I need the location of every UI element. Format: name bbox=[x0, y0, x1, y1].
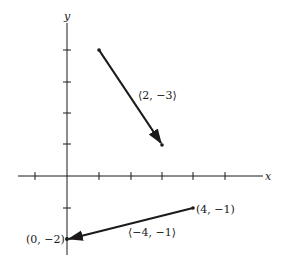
vector-2-neg3-end-point bbox=[160, 143, 164, 147]
x-axis-label: x bbox=[265, 170, 272, 183]
vector-diagram: x y ⟨2, −3⟩ (4, −1) (0, −2) ⟨−4, −1⟩ bbox=[0, 0, 285, 265]
vector-neg4-neg1-label: ⟨−4, −1⟩ bbox=[128, 226, 176, 239]
vector-2-neg3-label: ⟨2, −3⟩ bbox=[138, 89, 177, 102]
y-axis-label: y bbox=[63, 10, 71, 23]
vector-neg4-neg1-start-point bbox=[191, 206, 195, 210]
vector-neg4-neg1-end-point bbox=[65, 237, 69, 241]
point-0-neg2-label: (0, −2) bbox=[26, 233, 65, 246]
point-4-neg1-label: (4, −1) bbox=[196, 203, 235, 216]
vector-2-neg3-start-point bbox=[97, 48, 101, 52]
